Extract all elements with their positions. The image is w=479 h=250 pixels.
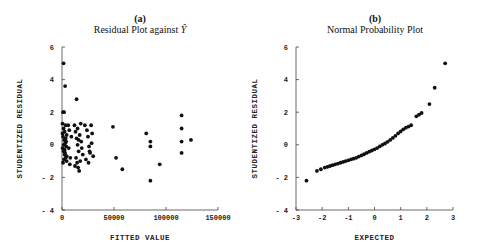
data-point <box>76 127 80 131</box>
data-point <box>68 156 72 160</box>
x-tick-label: -3 <box>292 214 300 222</box>
data-point <box>62 158 66 162</box>
data-point <box>69 135 73 139</box>
data-points <box>61 61 193 182</box>
data-point <box>90 141 94 145</box>
data-point <box>180 114 184 118</box>
data-point <box>120 167 124 171</box>
data-point <box>61 131 65 135</box>
data-point <box>77 149 81 153</box>
data-point <box>409 123 413 127</box>
data-point <box>87 161 91 165</box>
y-axis-label: STUDENTIZED RESIDUAL <box>251 78 259 178</box>
x-tick-label: 0 <box>372 214 376 222</box>
data-point <box>89 123 93 127</box>
panel-b-plot: - 4- 20246-3-2-10123EXPECTEDSTUDENTIZED … <box>251 44 455 243</box>
data-point <box>77 169 81 173</box>
y-tick-label: 4 <box>50 76 54 84</box>
x-tick-label: 0 <box>60 214 64 222</box>
x-tick-label: 150000 <box>205 214 230 222</box>
data-point <box>61 161 65 165</box>
y-tick-label: - 4 <box>275 207 288 215</box>
data-point <box>189 138 193 142</box>
data-point <box>180 127 184 131</box>
data-point <box>67 128 71 132</box>
data-point <box>78 133 82 137</box>
data-point <box>74 156 78 160</box>
y-tick-label: 4 <box>284 76 288 84</box>
panel-a-plot: - 4- 20246050000100000150000FITTED VALUE… <box>16 44 231 243</box>
data-point <box>420 111 424 115</box>
x-tick-label: 2 <box>425 214 429 222</box>
y-tick-label: - 2 <box>275 174 288 182</box>
y-axis-label: STUDENTIZED RESIDUAL <box>16 78 24 178</box>
data-point <box>67 146 71 150</box>
x-axis-label: EXPECTED <box>354 234 394 242</box>
data-point <box>86 135 90 139</box>
x-tick-label: -1 <box>344 214 352 222</box>
data-point <box>65 154 69 158</box>
data-point <box>76 143 80 147</box>
data-point <box>77 138 81 142</box>
data-point <box>79 122 83 126</box>
y-tick-label: 6 <box>284 44 288 52</box>
data-point <box>114 156 118 160</box>
x-tick-label: 50000 <box>103 214 124 222</box>
data-point <box>64 136 68 140</box>
data-point <box>305 179 309 183</box>
data-point <box>63 151 67 155</box>
x-tick-label: -2 <box>318 214 326 222</box>
data-point <box>78 159 82 163</box>
data-point <box>158 162 162 166</box>
data-point <box>62 143 66 147</box>
data-point <box>149 145 153 149</box>
x-axis-label: FITTED VALUE <box>110 234 170 242</box>
data-point <box>443 61 447 65</box>
data-point <box>319 167 323 171</box>
data-point <box>90 131 94 135</box>
data-point <box>144 131 148 135</box>
y-tick-label: 0 <box>50 141 54 149</box>
data-point <box>111 125 115 129</box>
data-point <box>62 127 66 131</box>
data-point <box>80 146 84 150</box>
data-point <box>91 154 95 158</box>
x-tick-label: 3 <box>451 214 455 222</box>
data-point <box>63 84 67 88</box>
data-point <box>315 169 319 173</box>
data-point <box>84 158 88 162</box>
data-point <box>85 128 89 132</box>
data-point <box>75 97 79 101</box>
y-tick-label: 6 <box>50 44 54 52</box>
data-point <box>83 123 87 127</box>
y-tick-label: 2 <box>50 109 54 117</box>
data-point <box>180 140 184 144</box>
y-tick-label: 0 <box>284 141 288 149</box>
x-tick-label: 1 <box>399 214 403 222</box>
data-point <box>73 123 77 127</box>
data-point <box>66 123 70 127</box>
data-point <box>180 151 184 155</box>
chart-canvas: - 4- 20246050000100000150000FITTED VALUE… <box>0 0 479 250</box>
data-point <box>88 149 92 153</box>
data-point <box>62 110 66 114</box>
data-point <box>433 86 437 90</box>
y-tick-label: - 4 <box>41 207 54 215</box>
data-point <box>65 133 69 137</box>
data-point <box>81 153 85 157</box>
data-point <box>87 145 91 149</box>
y-tick-label: - 2 <box>41 174 54 182</box>
data-point <box>74 130 78 134</box>
x-tick-label: 100000 <box>153 214 178 222</box>
data-point <box>62 61 66 65</box>
data-point <box>73 164 77 168</box>
data-point <box>149 140 153 144</box>
data-point <box>64 140 68 144</box>
y-tick-label: 2 <box>284 109 288 117</box>
data-point <box>428 102 432 106</box>
data-point <box>149 179 153 183</box>
data-point <box>63 148 67 152</box>
data-point <box>68 162 72 166</box>
data-points <box>305 61 447 182</box>
